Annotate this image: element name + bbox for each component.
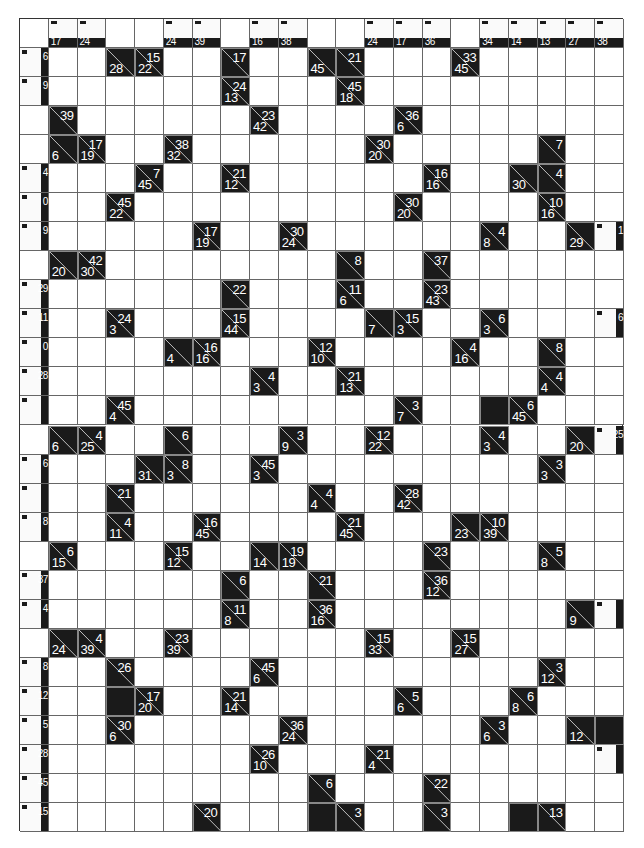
entry-cell[interactable]	[336, 338, 365, 367]
entry-cell[interactable]	[78, 484, 107, 513]
entry-cell[interactable]	[365, 484, 394, 513]
entry-cell[interactable]	[595, 629, 624, 658]
entry-cell[interactable]	[566, 77, 595, 106]
entry-cell[interactable]	[250, 338, 279, 367]
entry-cell[interactable]	[308, 367, 337, 396]
entry-cell[interactable]	[221, 426, 250, 455]
entry-cell[interactable]	[49, 396, 78, 425]
entry-cell[interactable]	[279, 455, 308, 484]
entry-cell[interactable]	[394, 774, 423, 803]
entry-cell[interactable]	[566, 803, 595, 832]
entry-cell[interactable]	[279, 803, 308, 832]
entry-cell[interactable]	[423, 658, 452, 687]
entry-cell[interactable]	[78, 77, 107, 106]
entry-cell[interactable]	[566, 455, 595, 484]
entry-cell[interactable]	[135, 745, 164, 774]
entry-cell[interactable]	[193, 164, 222, 193]
entry-cell[interactable]	[135, 716, 164, 745]
entry-cell[interactable]	[595, 687, 624, 716]
entry-cell[interactable]	[49, 309, 78, 338]
entry-cell[interactable]	[49, 571, 78, 600]
entry-cell[interactable]	[78, 193, 107, 222]
entry-cell[interactable]	[595, 338, 624, 367]
entry-cell[interactable]	[509, 367, 538, 396]
entry-cell[interactable]	[308, 193, 337, 222]
entry-cell[interactable]	[250, 513, 279, 542]
entry-cell[interactable]	[279, 193, 308, 222]
entry-cell[interactable]	[221, 222, 250, 251]
entry-cell[interactable]	[78, 396, 107, 425]
entry-cell[interactable]	[250, 164, 279, 193]
entry-cell[interactable]	[480, 629, 509, 658]
entry-cell[interactable]	[49, 687, 78, 716]
entry-cell[interactable]	[336, 396, 365, 425]
entry-cell[interactable]	[509, 48, 538, 77]
entry-cell[interactable]	[509, 193, 538, 222]
entry-cell[interactable]	[193, 455, 222, 484]
entry-cell[interactable]	[164, 484, 193, 513]
entry-cell[interactable]	[308, 542, 337, 571]
entry-cell[interactable]	[78, 571, 107, 600]
entry-cell[interactable]	[566, 745, 595, 774]
entry-cell[interactable]	[308, 135, 337, 164]
entry-cell[interactable]	[365, 658, 394, 687]
entry-cell[interactable]	[509, 542, 538, 571]
entry-cell[interactable]	[394, 48, 423, 77]
entry-cell[interactable]	[423, 513, 452, 542]
entry-cell[interactable]	[279, 77, 308, 106]
entry-cell[interactable]	[394, 164, 423, 193]
entry-cell[interactable]	[538, 716, 567, 745]
entry-cell[interactable]	[394, 367, 423, 396]
entry-cell[interactable]	[250, 600, 279, 629]
entry-cell[interactable]	[595, 135, 624, 164]
entry-cell[interactable]	[106, 77, 135, 106]
entry-cell[interactable]	[566, 658, 595, 687]
entry-cell[interactable]	[308, 251, 337, 280]
entry-cell[interactable]	[250, 484, 279, 513]
entry-cell[interactable]	[595, 77, 624, 106]
entry-cell[interactable]	[106, 135, 135, 164]
entry-cell[interactable]	[365, 571, 394, 600]
entry-cell[interactable]	[509, 571, 538, 600]
entry-cell[interactable]	[566, 396, 595, 425]
entry-cell[interactable]	[566, 48, 595, 77]
entry-cell[interactable]	[336, 542, 365, 571]
entry-cell[interactable]	[480, 193, 509, 222]
entry-cell[interactable]	[538, 426, 567, 455]
entry-cell[interactable]	[394, 513, 423, 542]
entry-cell[interactable]	[135, 600, 164, 629]
entry-cell[interactable]	[221, 251, 250, 280]
entry-cell[interactable]	[480, 164, 509, 193]
entry-cell[interactable]	[135, 251, 164, 280]
entry-cell[interactable]	[106, 338, 135, 367]
entry-cell[interactable]	[164, 222, 193, 251]
entry-cell[interactable]	[49, 280, 78, 309]
entry-cell[interactable]	[221, 716, 250, 745]
entry-cell[interactable]	[423, 135, 452, 164]
entry-cell[interactable]	[509, 774, 538, 803]
entry-cell[interactable]	[394, 251, 423, 280]
entry-cell[interactable]	[250, 193, 279, 222]
entry-cell[interactable]	[49, 513, 78, 542]
entry-cell[interactable]	[538, 251, 567, 280]
entry-cell[interactable]	[538, 774, 567, 803]
entry-cell[interactable]	[451, 658, 480, 687]
entry-cell[interactable]	[423, 426, 452, 455]
entry-cell[interactable]	[595, 542, 624, 571]
entry-cell[interactable]	[279, 629, 308, 658]
entry-cell[interactable]	[451, 280, 480, 309]
entry-cell[interactable]	[566, 106, 595, 135]
entry-cell[interactable]	[49, 222, 78, 251]
entry-cell[interactable]	[509, 455, 538, 484]
entry-cell[interactable]	[394, 135, 423, 164]
entry-cell[interactable]	[106, 600, 135, 629]
entry-cell[interactable]	[480, 251, 509, 280]
entry-cell[interactable]	[106, 455, 135, 484]
entry-cell[interactable]	[221, 803, 250, 832]
entry-cell[interactable]	[566, 629, 595, 658]
entry-cell[interactable]	[193, 135, 222, 164]
entry-cell[interactable]	[595, 106, 624, 135]
entry-cell[interactable]	[538, 513, 567, 542]
entry-cell[interactable]	[451, 803, 480, 832]
entry-cell[interactable]	[221, 338, 250, 367]
